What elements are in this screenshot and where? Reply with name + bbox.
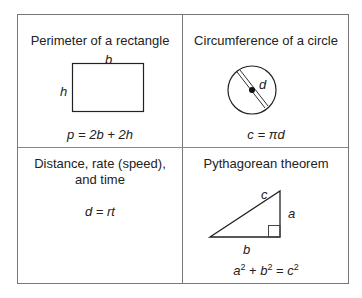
formula-grid: Perimeter of a rectangle b h p = 2b + 2h… — [17, 14, 349, 284]
cell-title-line1: Distance, rate (speed), — [18, 156, 182, 172]
cell-title-line2: and time — [18, 172, 182, 188]
cell-title: Pythagorean theorem — [183, 156, 349, 172]
formula-distance: d = rt — [18, 204, 182, 219]
cell-circle-circumference: Circumference of a circle d c = πd — [183, 15, 349, 147]
formula-circumference: c = πd — [183, 127, 349, 142]
cell-pythagorean-theorem: Pythagorean theorem c a b a2 + b2 = c2 — [183, 148, 349, 284]
right-triangle-icon — [210, 190, 282, 240]
rectangle-icon — [72, 63, 144, 113]
label-a: a — [288, 206, 295, 221]
cell-title: Circumference of a circle — [183, 33, 349, 49]
label-b: b — [243, 242, 250, 257]
circle-icon — [227, 65, 277, 115]
label-h: h — [60, 84, 67, 99]
label-d: d — [259, 77, 266, 92]
cell-distance-rate-time: Distance, rate (speed), and time d = rt — [18, 148, 182, 284]
formula-perimeter: p = 2b + 2h — [18, 127, 182, 142]
cell-title: Perimeter of a rectangle — [18, 33, 182, 49]
cell-rectangle-perimeter: Perimeter of a rectangle b h p = 2b + 2h — [18, 15, 182, 147]
label-c: c — [261, 187, 268, 202]
formula-pythagorean: a2 + b2 = c2 — [183, 262, 349, 278]
